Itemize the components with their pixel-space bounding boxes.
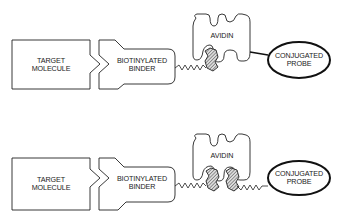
conjugated-probe: CONJUGATED PROBE (268, 42, 330, 78)
diagram-top: TARGET MOLECULE BIOTINYLATED BINDER AVID… (12, 14, 330, 89)
target-label-line2: MOLECULE (32, 183, 71, 192)
linker-zigzag (175, 183, 206, 188)
target-label-line2: MOLECULE (32, 64, 71, 73)
binder-label-line2: BINDER (129, 182, 156, 191)
avidin-label: AVIDIN (211, 31, 234, 40)
target-molecule: TARGET MOLECULE (12, 40, 100, 89)
biotin-icon (206, 168, 219, 191)
probe-label-line2: PROBE (287, 59, 312, 68)
biotinylated-binder: BIOTINYLATED BINDER (99, 40, 175, 89)
binder-label-line2: BINDER (129, 64, 156, 73)
biotinylated-binder: BIOTINYLATED BINDER (99, 158, 175, 210)
target-molecule: TARGET MOLECULE (12, 158, 100, 210)
biotin-icon (205, 48, 218, 71)
avidin: AVIDIN (193, 134, 250, 181)
probe-label-line2: PROBE (287, 177, 312, 186)
avidin-label: AVIDIN (211, 151, 234, 160)
probe-link (250, 52, 268, 55)
linker-zigzag (175, 65, 206, 70)
diagram-bottom: TARGET MOLECULE BIOTINYLATED BINDER AVID… (12, 134, 330, 210)
diagram-canvas: TARGET MOLECULE BIOTINYLATED BINDER AVID… (0, 0, 342, 222)
probe-linker-zigzag (237, 185, 268, 190)
avidin: AVIDIN (193, 14, 250, 62)
conjugated-probe: CONJUGATED PROBE (268, 161, 330, 195)
biotin-icon (226, 168, 239, 191)
